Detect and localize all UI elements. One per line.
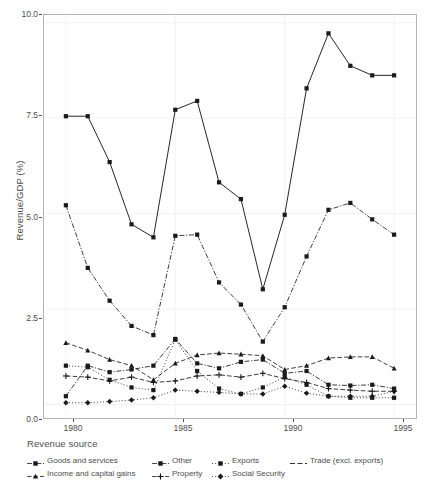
data-point-marker [261,340,265,344]
data-point-marker [151,333,155,337]
legend-item-exports[interactable]: Exports [212,454,290,467]
series-other [64,337,396,398]
data-point-marker [86,365,90,369]
data-point-marker [326,31,330,35]
x-tick-mark-1995 [403,419,404,422]
series-trade-excl-exports [64,31,396,291]
data-point-marker [173,108,177,112]
legend-label-trade-excl-exports: Trade (excl. exports) [310,456,383,465]
y-tick-label-2_5: 2.5 [8,314,38,323]
data-point-marker [304,383,308,387]
figure-caption [44,487,424,498]
data-point-marker [173,387,178,392]
data-point-marker [260,370,266,376]
data-point-marker [283,305,287,309]
legend-item-trade-excl-exports[interactable]: Trade (excl. exports) [290,454,410,467]
legend-column-4: Trade (excl. exports) [290,454,410,467]
data-point-marker [370,354,375,359]
x-tick-label-1995: 1995 [383,424,423,433]
legend-column-1: Goods and services Income and capital ga… [27,454,152,480]
data-point-marker [129,374,135,380]
legend-column-3: Exports Social Security [212,454,290,480]
legend-item-other[interactable]: Other [152,454,212,467]
data-point-marker [63,373,69,379]
series-line [66,203,394,342]
data-point-marker [348,383,352,387]
data-point-marker [129,367,133,371]
y-tick-label-7_5: 7.5 [8,111,38,120]
data-point-marker [238,374,244,380]
data-point-marker [348,201,352,205]
data-point-marker [370,217,374,221]
data-point-marker [370,73,374,77]
data-point-marker [107,357,112,362]
legend-item-goods-and-services[interactable]: Goods and services [27,454,152,467]
chart-legend: Revenue source Goods and services [27,438,427,480]
data-point-marker [239,197,243,201]
data-point-marker [392,233,396,237]
x-tick-mark-1980 [73,419,74,422]
data-point-marker [64,394,68,398]
data-point-marker [64,364,68,368]
x-tick-label-1990: 1990 [273,424,313,433]
series-social-security [63,384,397,406]
data-point-marker [173,234,177,238]
data-point-marker [348,64,352,68]
legend-title: Revenue source [27,438,427,449]
data-point-marker [239,360,243,364]
series-line [66,339,394,396]
data-point-marker [107,399,112,404]
data-point-marker [172,378,178,384]
legend-label-social-security: Social Security [232,469,285,478]
data-point-marker [369,388,375,394]
data-point-marker [260,391,265,396]
y-axis-ticks: 10.0 7.5 5.0 2.5 0.0 [6,0,38,498]
series-exports [64,338,396,400]
data-point-marker [173,338,177,342]
gridlines [44,15,416,418]
legend-item-property[interactable]: Property [152,467,212,480]
series-layer [63,31,397,405]
data-point-marker [392,73,396,77]
y-tick-mark-0 [39,419,42,420]
data-point-marker [195,233,199,237]
data-point-marker [239,302,243,306]
plot-svg [44,15,416,418]
data-point-marker [261,357,265,361]
data-point-marker [261,287,265,291]
legend-item-income-and-capital-gains[interactable]: Income and capital gains [27,467,152,480]
series-line [66,386,394,402]
legend-label-goods-and-services: Goods and services [47,456,118,465]
data-point-marker [63,340,68,345]
solid-line-key-icon [290,455,307,466]
data-point-marker [283,371,287,375]
legend-item-social-security[interactable]: Social Security [212,467,290,480]
y-tick-label-0: 0.0 [8,415,38,424]
data-point-marker [392,396,396,400]
x-tick-label-1980: 1980 [53,424,93,433]
y-tick-mark-7_5 [39,115,42,116]
data-point-marker [326,355,331,360]
data-point-marker [151,235,155,239]
chart-figure: Revenue/GDP (%) 10.0 7.5 5.0 2.5 0.0 198… [0,0,435,498]
data-point-marker [194,389,199,394]
legend-columns: Goods and services Income and capital ga… [27,454,427,480]
dotted-diamond-key-icon [212,468,229,479]
data-point-marker [151,364,155,368]
y-tick-label-5: 5.0 [8,213,38,222]
data-point-marker [129,397,134,402]
series-property [63,370,397,394]
data-point-marker [261,385,265,389]
series-goods-and-services [64,201,396,344]
data-point-marker [217,180,221,184]
data-point-marker [86,266,90,270]
data-point-marker [129,385,133,389]
data-point-marker [326,208,330,212]
data-point-marker [129,363,134,368]
data-point-marker [283,375,287,379]
data-point-marker [151,395,156,400]
legend-label-other: Other [172,456,192,465]
series-line [66,343,394,380]
legend-label-income-and-capital-gains: Income and capital gains [47,469,136,478]
data-point-marker [304,254,308,258]
